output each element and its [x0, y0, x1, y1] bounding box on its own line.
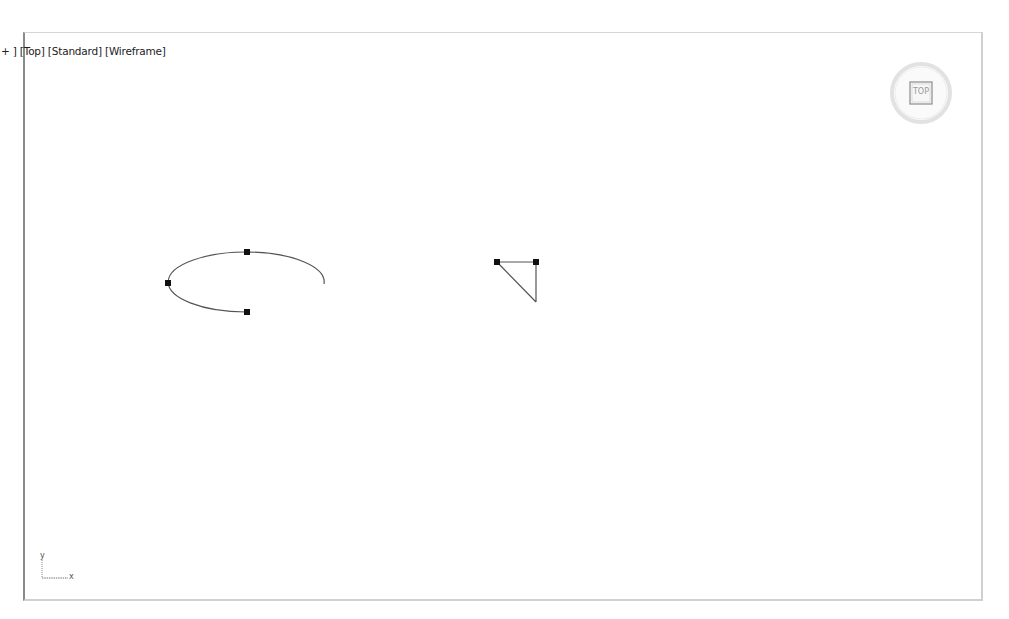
- arc-path: [168, 252, 324, 312]
- axis-x-label: x: [69, 572, 74, 581]
- vertex-handle: [165, 280, 171, 286]
- viewcube-face-label: TOP: [890, 87, 952, 96]
- scene-canvas[interactable]: [0, 0, 1009, 619]
- axis-y-label: y: [40, 551, 45, 560]
- vertex-handle: [244, 249, 250, 255]
- vertex-handle: [533, 259, 539, 265]
- viewcube[interactable]: TOP: [890, 62, 952, 124]
- vertex-handle: [494, 259, 500, 265]
- arc-spline[interactable]: [165, 249, 324, 315]
- axis-tripod-icon: y x: [38, 552, 88, 582]
- triangle-spline[interactable]: [494, 259, 539, 302]
- vertex-handle: [244, 309, 250, 315]
- triangle-path: [497, 262, 536, 302]
